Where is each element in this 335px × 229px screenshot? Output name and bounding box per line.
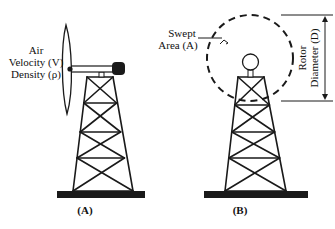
yaw-post-a [99,72,104,77]
arrow-down-icon [322,94,328,100]
rotor-label: Rotor [296,45,308,70]
swept-label: Swept [168,27,196,39]
caption-a: (A) [77,204,93,217]
diameter-label: Diameter (D) [308,28,321,87]
nacelle-b [243,54,259,70]
panel-b: Rotor Diameter (D) Swept Area (A) (B) [158,15,333,217]
base-b [204,191,308,198]
hub-a [67,66,72,71]
area-label: Area (A) [158,39,198,52]
generator-a [112,62,125,75]
arrow-up-icon [322,16,328,22]
neck-b [248,70,253,77]
shaft-a [70,66,114,72]
panel-a: Air Velocity (V) Density (ρ) (A) [9,25,145,217]
tower-b [225,77,286,191]
base-a [57,191,145,198]
air-label: Air [29,44,44,56]
caption-b: (B) [233,204,248,217]
wind-turbine-diagram: Air Velocity (V) Density (ρ) (A) [0,0,335,229]
swept-area-arrow-icon [220,40,228,44]
density-label: Density (ρ) [11,68,61,81]
tower-a [73,77,133,191]
